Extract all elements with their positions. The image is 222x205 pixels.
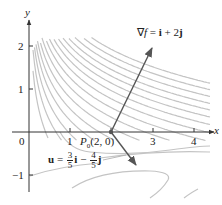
point-p0 <box>109 130 113 134</box>
origin-label: 0 <box>19 136 25 147</box>
point-name: P <box>80 135 87 147</box>
gradient-plus: + 2 <box>162 26 179 38</box>
point-p0-label: P0(2, 0) <box>80 136 114 150</box>
point-coords: (2, 0) <box>90 135 114 147</box>
level-curves <box>33 38 210 141</box>
frac1-denominator: 5 <box>67 161 74 170</box>
x-ticks <box>70 128 194 132</box>
fraction-4-5: 45 <box>90 151 97 170</box>
u-minus: − <box>77 153 89 165</box>
x-axis-label: x <box>214 125 219 136</box>
y-ticks <box>29 46 33 175</box>
y-tick-label-2: 2 <box>18 41 24 52</box>
fraction-3-5: 35 <box>67 151 74 170</box>
y-tick-label-minus-1: −1 <box>12 170 24 181</box>
y-axis-label: y <box>25 7 30 18</box>
nabla-symbol: ∇ <box>137 26 144 38</box>
gradient-j: j <box>179 26 183 38</box>
gradient-vector <box>111 48 152 132</box>
x-tick-label-3: 3 <box>150 136 156 147</box>
gradient-eq: = <box>147 26 159 38</box>
x-tick-label-1: 1 <box>67 136 73 147</box>
unit-vector-label: u = 35i − 45j <box>48 151 101 170</box>
x-tick-label-4: 4 <box>191 136 197 147</box>
u-j: j <box>98 153 102 165</box>
gradient-label: ∇f = i + 2j <box>137 27 183 38</box>
y-tick-label-1: 1 <box>18 84 24 95</box>
frac2-denominator: 5 <box>90 161 97 170</box>
contour-plot <box>0 0 222 205</box>
u-eq: = <box>54 153 66 165</box>
